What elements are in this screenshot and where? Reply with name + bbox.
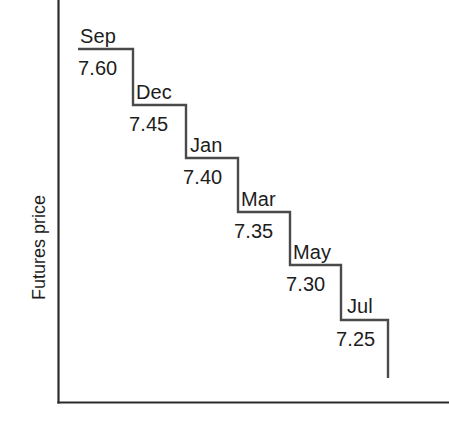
data-label-month-jan: Jan xyxy=(190,135,223,155)
data-label-price-dec: 7.45 xyxy=(129,114,168,134)
data-label-price-may: 7.30 xyxy=(286,274,325,294)
data-label-price-mar: 7.35 xyxy=(234,221,273,241)
data-label-month-may: May xyxy=(293,242,331,262)
data-label-price-jul: 7.25 xyxy=(336,329,375,349)
data-label-price-jan: 7.40 xyxy=(183,167,222,187)
chart-canvas xyxy=(0,0,449,423)
data-label-month-sep: Sep xyxy=(80,26,116,46)
data-label-month-mar: Mar xyxy=(241,189,276,209)
y-axis-title: Futures price xyxy=(30,100,48,300)
data-label-month-dec: Dec xyxy=(136,82,172,102)
data-label-month-jul: Jul xyxy=(347,296,373,316)
data-label-price-sep: 7.60 xyxy=(78,58,117,78)
futures-price-step-chart: Futures price Sep 7.60 Dec 7.45 Jan 7.40… xyxy=(0,0,449,423)
